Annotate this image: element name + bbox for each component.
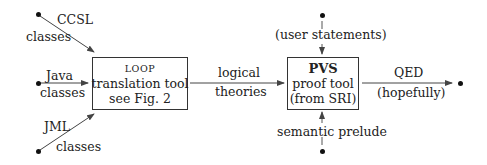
ccsl-label: CCSL [57, 13, 93, 27]
user-statements-label: (user statements) [275, 28, 387, 42]
semantic-prelude-label: semantic prelude [277, 125, 387, 139]
hopefully-label: (hopefully) [377, 86, 445, 100]
pvs-proof-tool-box: PVS proof tool (from SRI) [287, 57, 359, 110]
pvs-source: (from SRI) [290, 91, 357, 106]
theories-label: theories [215, 85, 267, 99]
java-classes-label: classes [40, 86, 85, 100]
diagram-canvas: CCSL classes Java classes JML classes LO… [0, 0, 487, 165]
java-label: Java [46, 69, 73, 83]
loop-reference: see Fig. 2 [109, 91, 171, 106]
semantic-prelude-source-dot [320, 149, 325, 154]
output-sink-dot [458, 81, 463, 86]
pvs-title: PVS [308, 61, 337, 76]
loop-subtitle: translation tool [92, 76, 189, 91]
ccsl-classes-label: classes [26, 30, 71, 44]
loop-translation-tool-box: LOOP translation tool see Fig. 2 [92, 57, 188, 110]
qed-label: QED [394, 66, 423, 80]
loop-title: LOOP [125, 62, 156, 76]
jml-classes-label: classes [56, 140, 101, 154]
user-statements-source-dot [320, 13, 325, 18]
logical-label: logical [218, 66, 260, 80]
pvs-subtitle: proof tool [292, 76, 354, 91]
ccsl-source-dot [36, 12, 41, 17]
jml-label: JML [44, 120, 70, 134]
jml-source-dot [36, 149, 41, 154]
